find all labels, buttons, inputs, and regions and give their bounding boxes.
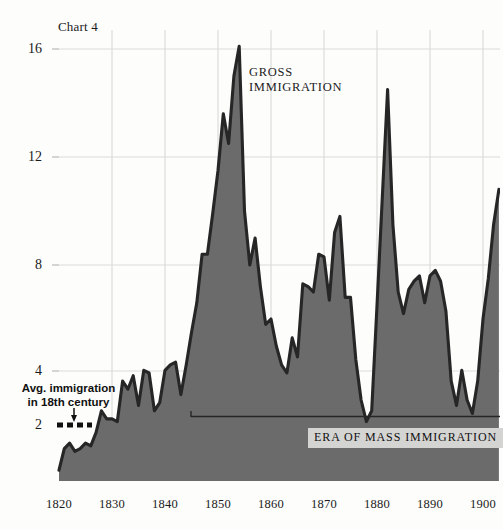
ytick-label-2: 2 [14, 417, 42, 433]
ytick-label-4: 4 [14, 363, 42, 379]
immigration-area-fill [59, 46, 499, 481]
y-tick-marks [52, 49, 59, 371]
series-label-line-2: IMMIGRATION [249, 80, 342, 95]
avg-immigration-annotation: Avg. immigration in 18th century [6, 382, 131, 409]
ytick-label-12: 12 [14, 149, 42, 165]
xtick-label-1850: 1850 [198, 497, 238, 512]
xtick-label-1870: 1870 [304, 497, 344, 512]
avg-annotation-line-2: in 18th century [6, 396, 131, 410]
xtick-label-1840: 1840 [145, 497, 185, 512]
xtick-label-1830: 1830 [92, 497, 132, 512]
ytick-label-8: 8 [14, 257, 42, 273]
xtick-label-1880: 1880 [357, 497, 397, 512]
series-label-line-1: GROSS [249, 65, 342, 80]
xtick-label-1890: 1890 [410, 497, 450, 512]
xtick-label-1820: 1820 [39, 497, 79, 512]
series-label-gross-immigration: GROSS IMMIGRATION [249, 65, 342, 95]
chart-title: Chart 4 [58, 19, 98, 35]
era-of-mass-immigration-label: ERA OF MASS IMMIGRATION [308, 428, 503, 448]
xtick-label-1860: 1860 [251, 497, 291, 512]
down-arrow-icon [71, 415, 77, 422]
xtick-label-1900: 1900 [463, 497, 503, 512]
avg-immigration-marker [57, 408, 92, 425]
ytick-label-16: 16 [14, 41, 42, 57]
avg-annotation-line-1: Avg. immigration [6, 382, 131, 396]
